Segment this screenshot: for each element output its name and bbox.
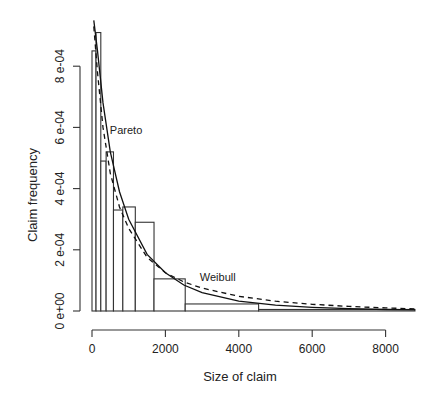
y-tick-label: 8 e-04 [53, 49, 67, 83]
histogram-bar [113, 210, 122, 311]
histogram-bar [92, 51, 96, 311]
y-axis-label: Claim frequency [25, 148, 40, 242]
histogram-bar [135, 222, 154, 311]
y-tick-label: 0 e+00 [53, 292, 67, 329]
histogram-bar [123, 207, 135, 311]
x-tick-label: 4000 [225, 342, 252, 356]
pareto-label: Pareto [110, 124, 142, 136]
x-tick-label: 0 [89, 342, 96, 356]
histogram-bars [92, 33, 415, 311]
x-axis: 02000400060008000 [89, 330, 400, 356]
histogram-bar [154, 279, 185, 311]
histogram-bar [185, 304, 258, 311]
y-tick-label: 4 e-04 [53, 171, 67, 205]
x-axis-label: Size of claim [203, 369, 277, 384]
x-tick-label: 2000 [152, 342, 179, 356]
histogram-bar [106, 152, 113, 311]
histogram-bar [101, 161, 106, 311]
histogram-chart: 02000400060008000 0 e+002 e-044 e-046 e-… [0, 0, 438, 400]
weibull-label: Weibull [200, 271, 236, 283]
y-tick-label: 2 e-04 [53, 232, 67, 266]
y-axis: 0 e+002 e-044 e-046 e-048 e-04 [53, 49, 80, 330]
x-tick-label: 6000 [299, 342, 326, 356]
x-tick-label: 8000 [372, 342, 399, 356]
y-tick-label: 6 e-04 [53, 110, 67, 144]
